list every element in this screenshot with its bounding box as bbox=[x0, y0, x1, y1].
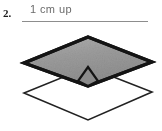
overlapping-rhombi-diagram bbox=[0, 24, 162, 131]
worksheet-question-panel: 2. 1 cm up bbox=[0, 0, 162, 131]
question-number: 2. bbox=[3, 7, 11, 19]
answer-text: 1 cm up bbox=[30, 2, 72, 16]
geometry-figure bbox=[0, 24, 162, 131]
answer-rule bbox=[22, 21, 148, 22]
answer-line-field[interactable]: 1 cm up bbox=[22, 2, 148, 24]
